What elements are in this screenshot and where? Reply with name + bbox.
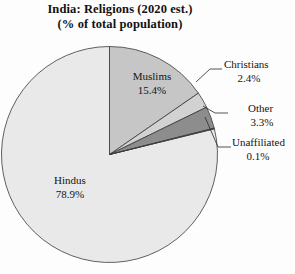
callout-label-christians-name: Christians xyxy=(224,58,269,70)
callout-label-christians-value: 2.4% xyxy=(238,72,261,84)
callout-label-other-name: Other xyxy=(248,102,273,114)
leader-line-christians xyxy=(196,69,222,82)
pie-chart-figure: India: Religions (2020 est.) (% of total… xyxy=(0,0,295,274)
slice-label-hindus-value: 78.9% xyxy=(56,188,84,200)
callout-label-unaffiliated-value: 0.1% xyxy=(247,150,270,162)
callout-label-unaffiliated-name: Unaffiliated xyxy=(232,136,285,148)
pie-chart-canvas: Muslims 15.4% Hindus 78.9% Christians 2.… xyxy=(0,0,295,274)
slice-label-muslims-value: 15.4% xyxy=(138,84,166,96)
slice-label-muslims-name: Muslims xyxy=(133,70,172,82)
slice-label-hindus-name: Hindus xyxy=(54,174,86,186)
callout-label-other-value: 3.3% xyxy=(251,116,274,128)
